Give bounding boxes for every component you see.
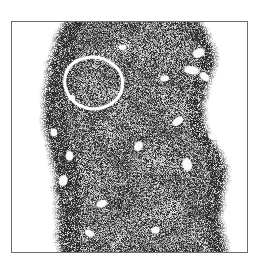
histology-micrograph-image: [12, 22, 247, 252]
micrograph-frame: [11, 21, 248, 253]
figure-root: [0, 0, 259, 269]
